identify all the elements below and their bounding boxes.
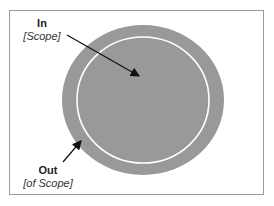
in-label-subtitle: [Scope] bbox=[20, 30, 64, 43]
in-label-title: In bbox=[20, 17, 64, 30]
out-label-subtitle: [of Scope] bbox=[18, 177, 78, 190]
out-of-scope-arrow-icon bbox=[63, 141, 81, 162]
out-label-title: Out bbox=[18, 164, 78, 177]
in-scope-label: In [Scope] bbox=[20, 17, 64, 43]
out-of-scope-label: Out [of Scope] bbox=[18, 164, 78, 190]
out-of-scope-region bbox=[62, 25, 224, 175]
